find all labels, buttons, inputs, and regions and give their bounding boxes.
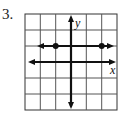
y-axis-down-arrow-icon [68,102,74,109]
y-axis-up-arrow-icon [68,15,74,22]
point-neg1-1 [53,43,59,49]
y-axis-label: y [74,16,81,30]
x-axis-label: x [109,63,116,77]
x-axis-left-arrow-icon [28,59,35,65]
point-2-1 [99,43,105,49]
line-right-arrow-icon [107,43,114,49]
coordinate-graph: y x [0,0,121,117]
